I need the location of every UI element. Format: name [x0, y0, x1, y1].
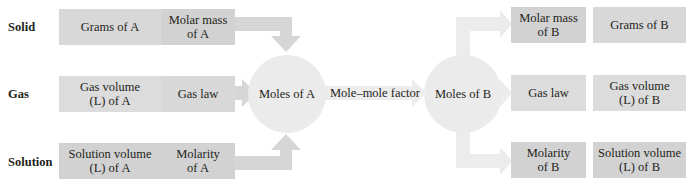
box-molarity-a: Molarity of A — [161, 143, 235, 179]
arrow-solution-a — [234, 134, 301, 170]
box-gas-law-b: Gas law — [511, 75, 586, 111]
row-label-gas: Gas — [8, 87, 29, 102]
box-molarity-b-label: Molarity of B — [527, 146, 571, 174]
box-gas-volume-a: Gas volume (L) of A — [59, 76, 161, 112]
box-solution-volume-b-label: Solution volume (L) of B — [598, 146, 681, 174]
box-solution-volume-b: Solution volume (L) of B — [593, 142, 686, 178]
mole-mole-factor-label: Mole–mole factor — [330, 86, 420, 101]
box-gas-volume-b-label: Gas volume (L) of B — [609, 79, 669, 107]
box-solution-volume-a: Solution volume (L) of A — [59, 143, 161, 179]
moles-a-label: Moles of A — [259, 87, 315, 102]
box-molarity-b: Molarity of B — [511, 142, 586, 178]
box-gas-law-a: Gas law — [161, 76, 235, 112]
box-molarity-a-label: Molarity of A — [176, 147, 220, 175]
box-grams-a: Grams of A — [59, 9, 161, 45]
moles-b-label: Moles of B — [435, 87, 491, 102]
row-label-solution: Solution — [8, 155, 52, 170]
arrow-solid-b — [456, 10, 512, 58]
arrow-solution-b — [456, 128, 512, 175]
circle-moles-a: Moles of A — [248, 55, 326, 133]
box-grams-b-label: Grams of B — [610, 18, 668, 32]
box-molar-mass-a-label: Molar mass of A — [169, 13, 228, 41]
box-molar-mass-b-label: Molar mass of B — [519, 11, 578, 39]
box-grams-a-label: Grams of A — [81, 20, 139, 34]
box-molar-mass-a: Molar mass of A — [161, 9, 235, 45]
box-gas-law-a-label: Gas law — [178, 87, 219, 101]
box-molar-mass-b: Molar mass of B — [511, 7, 586, 43]
circle-moles-b: Moles of B — [424, 55, 502, 133]
box-gas-law-b-label: Gas law — [528, 86, 569, 100]
box-gas-volume-a-label: Gas volume (L) of A — [80, 80, 140, 108]
box-gas-volume-b: Gas volume (L) of B — [593, 75, 686, 111]
box-grams-b: Grams of B — [593, 7, 686, 43]
box-solution-volume-a-label: Solution volume (L) of A — [69, 147, 152, 175]
arrow-solid-a — [234, 17, 301, 52]
row-label-solid: Solid — [8, 20, 35, 35]
